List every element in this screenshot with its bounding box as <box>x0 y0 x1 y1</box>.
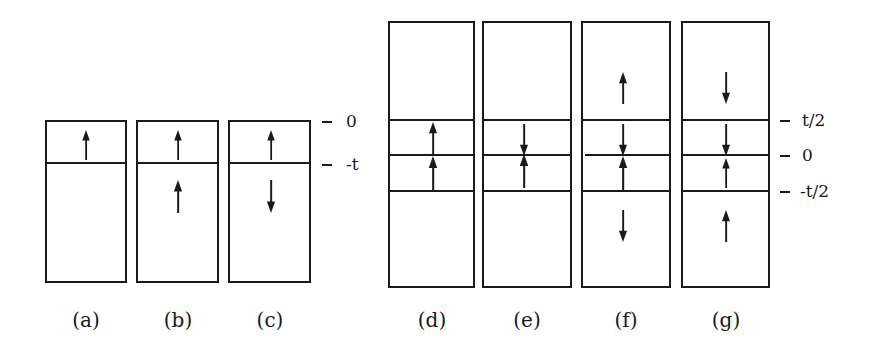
spin-up-arrow-icon <box>80 130 92 160</box>
spin-down-arrow-icon <box>617 124 629 156</box>
spin-up-arrow-icon <box>172 130 184 160</box>
spin-up-arrow-icon <box>172 180 184 213</box>
spin-up-arrow-icon <box>617 156 629 190</box>
spin-down-arrow-icon <box>720 72 732 104</box>
tick-label: t/2 <box>802 110 825 130</box>
spin-up-arrow-icon <box>427 122 439 154</box>
panel-label: (c) <box>240 308 300 332</box>
spin-up-arrow-icon <box>265 130 277 160</box>
panel-label: (f) <box>596 308 656 332</box>
spin-down-arrow-icon <box>720 124 732 156</box>
panel-label: (b) <box>148 308 208 332</box>
panel-label: (d) <box>402 308 462 332</box>
spin-up-arrow-icon <box>518 154 530 188</box>
tick-label: -t/2 <box>800 181 829 201</box>
spin-up-arrow-icon <box>720 210 732 242</box>
spin-up-arrow-icon <box>617 72 629 104</box>
tick-label: -t <box>346 154 359 174</box>
spin-down-arrow-icon <box>518 124 530 156</box>
spin-up-arrow-icon <box>720 158 732 188</box>
tick-label: 0 <box>346 111 357 131</box>
panel-label: (e) <box>497 308 557 332</box>
tick-label: 0 <box>802 145 813 165</box>
spin-down-arrow-icon <box>265 180 277 213</box>
spin-down-arrow-icon <box>617 210 629 242</box>
panel-label: (g) <box>696 308 756 332</box>
panel-label: (a) <box>56 308 116 332</box>
spin-up-arrow-icon <box>427 156 439 190</box>
